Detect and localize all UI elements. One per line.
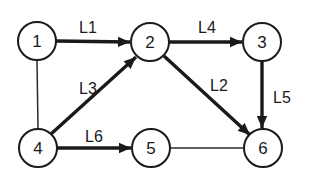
edge-label-l5: L5 [273, 89, 291, 106]
node-label-layer: 1 2 3 4 5 6 [32, 32, 267, 158]
edge-1-4-line [37, 60, 38, 129]
edge-l5-arrowhead [257, 116, 267, 128]
node-3-label: 3 [257, 33, 266, 52]
edge-label-l2: L2 [210, 77, 228, 94]
node-2-label: 2 [145, 33, 154, 52]
edge-label-l3: L3 [79, 80, 97, 97]
edge-l6-arrowhead [119, 143, 131, 153]
edge-label-l6: L6 [85, 128, 103, 145]
graph-diagram: 1 2 3 4 5 6 L1 L4 L3 L2 L5 L6 [0, 0, 309, 184]
edge-label-l4: L4 [198, 19, 216, 36]
node-1-label: 1 [32, 32, 41, 51]
edge-l1-arrowhead [118, 37, 130, 47]
node-4-label: 4 [33, 139, 42, 158]
edge-l2-line [164, 56, 250, 135]
edge-l4-arrowhead [230, 37, 242, 47]
edge-label-l1: L1 [79, 19, 97, 36]
node-5-label: 5 [146, 139, 155, 158]
node-6-label: 6 [258, 139, 267, 158]
